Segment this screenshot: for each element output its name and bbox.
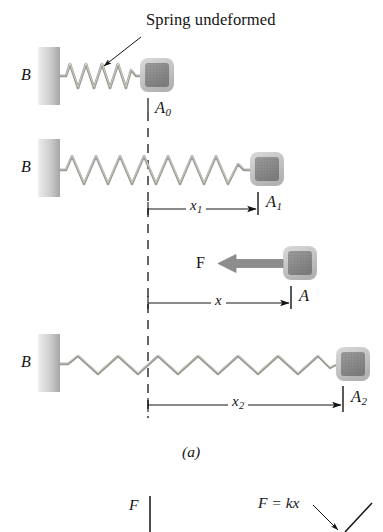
block-label-a2-subscript: 2: [361, 395, 367, 407]
dimension-label-x-text: x: [215, 292, 222, 308]
dimension-label-x: x: [211, 293, 226, 311]
wall-label-row4: B: [21, 354, 31, 370]
block-label-a0: A0: [155, 100, 171, 118]
block-label-a2-text: A: [351, 387, 361, 406]
force-arrow: [218, 255, 283, 273]
spring-force-figure: Spring undeformed B B B A0 A1 A A2 x1 x …: [0, 0, 383, 532]
wall-label-row1: B: [21, 67, 31, 83]
block-label-a1: A1: [266, 194, 282, 212]
block-label-a1-subscript: 1: [276, 200, 282, 212]
block-label-a: A: [299, 288, 309, 306]
dimension-label-x2-text: x: [232, 393, 239, 409]
dimension-label-x1: x1: [186, 198, 206, 216]
dimension-label-x2-subscript: 2: [239, 400, 244, 411]
row-undeformed: [38, 37, 174, 112]
block-label-a-text: A: [299, 286, 309, 305]
force-label: F: [196, 255, 205, 271]
callout-label: Spring undeformed: [146, 12, 276, 29]
block-hatch: [255, 157, 279, 181]
row-force-applied: [148, 246, 317, 309]
block-hatch: [341, 352, 365, 376]
wall-block: [38, 139, 60, 197]
row-stretched-x2: [38, 334, 370, 412]
wall-block: [38, 334, 60, 392]
figure-caption: (a): [182, 444, 200, 460]
callout-leader: [104, 37, 141, 66]
curve-leader: [313, 505, 338, 530]
block-label-a0-subscript: 0: [165, 106, 171, 118]
block-label-a1-text: A: [266, 192, 276, 211]
dimension-label-x2: x2: [228, 394, 248, 412]
block-label-a0-text: A: [155, 98, 165, 117]
graph-curve-line: [345, 503, 372, 532]
block-label-a2: A2: [351, 389, 367, 407]
dimension-label-x1-subscript: 1: [197, 204, 202, 215]
block-hatch: [288, 251, 312, 275]
graph-curve-label: F = kx: [258, 495, 299, 511]
wall-block: [38, 47, 60, 105]
graph-y-axis-label: F: [129, 497, 138, 513]
wall-label-row2: B: [21, 159, 31, 175]
dimension-label-x1-text: x: [190, 197, 197, 213]
row-stretched-x1: [38, 139, 284, 215]
block-hatch: [145, 63, 169, 87]
